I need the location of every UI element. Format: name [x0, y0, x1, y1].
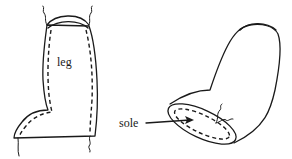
leg-label: leg: [57, 56, 72, 68]
stitch-line-flat: [19, 30, 52, 137]
thread-bottom-left: [18, 138, 19, 156]
assembled-boot-outline: [170, 24, 280, 143]
sole-arrow-line: [146, 120, 190, 123]
boot-pattern-diagram: leg sole: [0, 0, 292, 159]
thread-bottom-right: [89, 136, 90, 152]
cuff-arc-outer: [47, 16, 89, 25]
cuff-arc-inner: [48, 22, 88, 28]
thread-top-left: [43, 6, 47, 25]
flat-boot-outline: [14, 25, 97, 138]
sole-label: sole: [119, 117, 138, 129]
thread-sole: [216, 104, 233, 123]
thread-top-right: [89, 6, 92, 25]
diagram-drawing: [0, 0, 292, 159]
flat-boot-piece: [14, 6, 97, 156]
sole-ellipse: [163, 96, 242, 153]
stitch-line-flat-right: [86, 30, 92, 133]
assembled-boot: [146, 24, 280, 153]
